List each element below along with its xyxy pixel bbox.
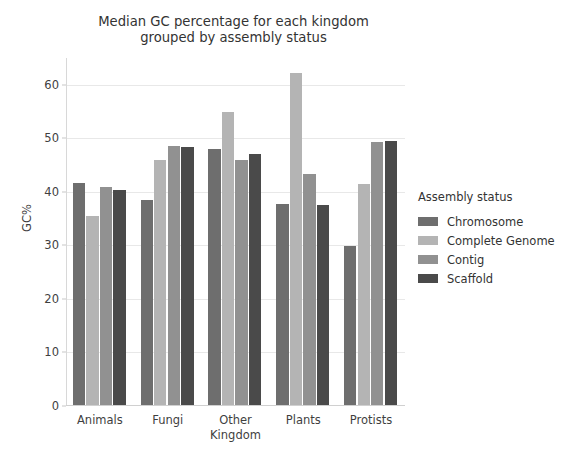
legend-swatch-icon — [418, 217, 438, 226]
plot-area: 0102030405060 AnimalsFungiOtherPlantsPro… — [66, 58, 405, 406]
legend-swatch-icon — [418, 255, 438, 264]
bar — [168, 146, 180, 406]
legend-item-label: Scaffold — [447, 272, 493, 286]
legend-item[interactable]: Chromosome — [418, 212, 555, 231]
y-axis-tick-label: 10 — [44, 345, 59, 359]
x-axis-tick-label: Fungi — [152, 413, 183, 427]
y-axis-line — [66, 58, 67, 406]
bar — [385, 141, 397, 406]
bar-group — [344, 58, 398, 406]
y-axis-tick-label: 0 — [52, 399, 59, 413]
bar — [276, 204, 288, 406]
x-axis-line — [66, 405, 405, 406]
legend-swatch-icon — [418, 274, 438, 283]
y-axis-tick-label: 20 — [44, 292, 59, 306]
x-axis-tick-label: Other — [219, 413, 252, 427]
bar — [249, 154, 261, 406]
bar — [73, 183, 85, 406]
legend-item[interactable]: Scaffold — [418, 269, 555, 288]
bar — [303, 174, 315, 406]
bar-group — [141, 58, 195, 406]
chart-title: Median GC percentage for each kingdom gr… — [62, 14, 405, 46]
bar — [344, 246, 356, 406]
legend-item-label: Chromosome — [447, 215, 523, 229]
x-axis-label: Kingdom — [66, 428, 405, 442]
legend: Assembly status ChromosomeComplete Genom… — [418, 190, 555, 288]
bar-group — [208, 58, 262, 406]
legend-item[interactable]: Complete Genome — [418, 231, 555, 250]
legend-item-label: Complete Genome — [447, 234, 555, 248]
bar — [358, 184, 370, 406]
y-axis-tick-label: 40 — [44, 185, 59, 199]
bar-group — [73, 58, 127, 406]
legend-title: Assembly status — [418, 190, 555, 204]
y-axis-tick-label: 50 — [44, 131, 59, 145]
bar — [154, 160, 166, 406]
bar — [222, 112, 234, 406]
legend-items: ChromosomeComplete GenomeContigScaffold — [418, 212, 555, 288]
bar — [317, 205, 329, 406]
y-axis-tick-label: 30 — [44, 238, 59, 252]
bar — [371, 142, 383, 406]
y-axis-tick-label: 60 — [44, 78, 59, 92]
x-axis-tick-label: Animals — [77, 413, 123, 427]
bar-group — [276, 58, 330, 406]
x-axis-tick-label: Protists — [350, 413, 392, 427]
bar — [86, 216, 98, 406]
chart-figure: Median GC percentage for each kingdom gr… — [0, 0, 566, 470]
bar — [235, 160, 247, 406]
bar — [141, 200, 153, 406]
bar — [181, 147, 193, 406]
legend-swatch-icon — [418, 236, 438, 245]
bar — [208, 149, 220, 406]
legend-item-label: Contig — [447, 253, 484, 267]
bar — [290, 73, 302, 406]
x-axis-tick-label: Plants — [286, 413, 321, 427]
legend-item[interactable]: Contig — [418, 250, 555, 269]
bar — [113, 190, 125, 406]
y-axis-label: GC% — [20, 204, 34, 232]
bar — [100, 187, 112, 407]
